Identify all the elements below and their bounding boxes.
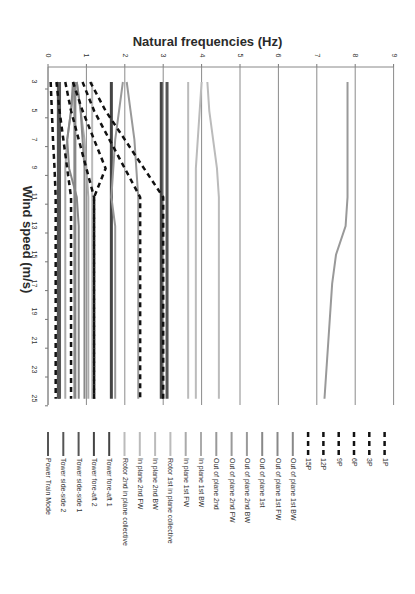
legend [48,432,385,456]
frequency-tick-label: 4 [198,49,205,63]
frequency-tick-label: 1 [83,49,90,63]
wind-speed-tick-label: 19 [31,305,38,319]
legend-label: Out of plane 2nd [213,458,220,510]
wind-speed-tick-label: 15 [31,247,38,261]
wind-speed-tick-label: 21 [31,334,38,348]
legend-label: In plane 1st FW [183,458,190,507]
legend-label: Rotor 2nd in plane collective [122,458,129,546]
wind-speed-tick-label: 5 [31,103,38,117]
series-lines [51,82,348,399]
frequency-tick-label: 5 [237,49,244,63]
frequency-tick-label: 9 [390,49,397,63]
legend-label: In plane 2nd FW [137,458,144,509]
legend-label: Tower side-side 2 [60,458,67,512]
frequency-tick-label: 2 [121,49,128,63]
series-line [51,82,56,399]
frequency-tick-label: 0 [45,49,52,63]
wind-speed-tick-label: 13 [31,219,38,233]
legend-label: Out of plane 1st [259,458,266,507]
legend-label: 9P [336,458,343,467]
frequency-tick-label: 7 [313,49,320,63]
legend-label: Tower side-side 1 [76,458,83,512]
wind-speed-tick-label: 3 [31,75,38,89]
wind-speed-tick-label: 17 [31,276,38,290]
legend-label: 3P [366,458,373,467]
series-line [207,82,219,399]
wind-speed-tick-label: 23 [31,363,38,377]
frequency-tick-label: 3 [160,49,167,63]
legend-label: 1P [382,458,389,467]
series-line [127,82,139,399]
legend-label: Tower fore-aft 1 [106,458,113,507]
series-line [90,82,163,399]
legend-label: Rotor 1st in plane collective [167,458,174,544]
legend-label: Tower fore-aft 2 [91,458,98,507]
frequency-tick-label: 8 [352,49,359,63]
legend-label: 12P [320,458,327,470]
legend-label: Power Train Mode [45,458,52,515]
wind-speed-tick-label: 9 [31,161,38,175]
legend-label: In plane 1st BW [198,458,205,507]
wind-speed-tick-label: 11 [31,190,38,204]
wind-speed-tick-label: 7 [31,132,38,146]
series-line [324,82,347,399]
legend-label: Out of plane 2nd FW [229,458,236,523]
legend-label: 6P [351,458,358,467]
frequency-tick-label: 6 [275,49,282,63]
legend-label: Out of plane 1st BW [290,458,297,521]
series-line [196,82,202,399]
wind-speed-tick-label: 25 [31,391,38,405]
legend-label: Out of plane 2nd BW [244,458,251,523]
legend-label: 15P [305,458,312,470]
legend-label: Out of plane 1st FW [275,458,282,520]
legend-label: In plane 2nd BW [152,458,159,510]
